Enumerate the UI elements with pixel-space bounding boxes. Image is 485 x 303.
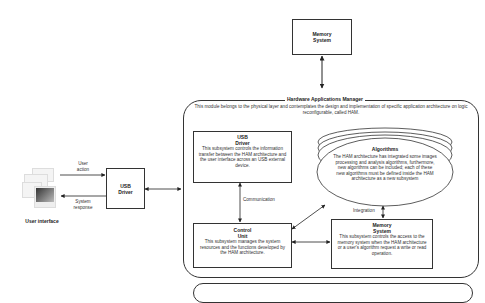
user-action-line2: action [70, 167, 96, 173]
algorithms-title: Algorithms [333, 146, 437, 152]
usb-driver-outer-box: USB Driver [106, 168, 145, 209]
memory-system-top-box: Memory System [292, 19, 352, 55]
memory-system-inner-description: This subsystem controls the access to th… [335, 234, 429, 256]
algorithms-node: Algorithms The HAM architecture has inte… [333, 146, 437, 182]
user-interface-label: User interface [12, 218, 72, 224]
algorithms-description: The HAM architecture has integrated some… [333, 154, 437, 182]
communication-label: Communication [243, 197, 275, 203]
ham-description: This module belongs to the physical laye… [190, 104, 472, 115]
memory-system-inner-box: Memory System This subsystem controls th… [331, 219, 433, 269]
integration-label: Integration [353, 208, 375, 214]
ham-title: Hardware Applications Manager [285, 96, 365, 102]
system-response-label: System response [68, 199, 98, 210]
user-interface-icon [22, 168, 58, 212]
next-layer-outline [193, 283, 473, 303]
usb-driver-outer-line2: Driver [107, 189, 144, 195]
usb-driver-inner-box: USB Driver This subsystem controls the i… [193, 131, 292, 183]
user-action-label: User action [70, 161, 96, 172]
control-unit-box: Control Unit This subsystem manages the … [193, 223, 292, 268]
system-response-line2: response [68, 205, 98, 211]
usb-driver-inner-description: This subsystem controls the information … [197, 146, 288, 168]
control-unit-description: This subsystem manages the system resour… [197, 239, 288, 256]
memory-system-top-line2: System [293, 37, 351, 43]
